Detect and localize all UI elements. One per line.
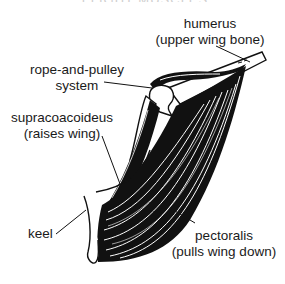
humerus-leader	[216, 46, 250, 62]
pectoralis-label: pectoralis (pulls wing down)	[166, 228, 282, 260]
pectoralis-label-line1: pectoralis	[166, 228, 282, 244]
keel-bone	[84, 196, 99, 263]
supracoracoideus-label-line2: (raises wing)	[6, 126, 118, 142]
humerus-label-line1: humerus	[150, 16, 270, 32]
pulley-label: rope-and-pulley system	[22, 62, 132, 94]
pulley-label-line1: rope-and-pulley	[22, 62, 132, 78]
keel-leader	[56, 210, 86, 234]
keel-label: keel	[28, 226, 53, 242]
supracoracoideus-label: supracoacoideus (raises wing)	[6, 110, 118, 142]
supracoracoideus-label-line1: supracoacoideus	[6, 110, 118, 126]
pectoralis-label-line2: (pulls wing down)	[166, 244, 282, 260]
pulley-label-line2: system	[22, 78, 132, 94]
bird-flight-muscle-diagram: FLIGHT MUSCLES	[0, 0, 285, 284]
humerus-label: humerus (upper wing bone)	[150, 16, 270, 48]
humerus-label-line2: (upper wing bone)	[150, 32, 270, 48]
